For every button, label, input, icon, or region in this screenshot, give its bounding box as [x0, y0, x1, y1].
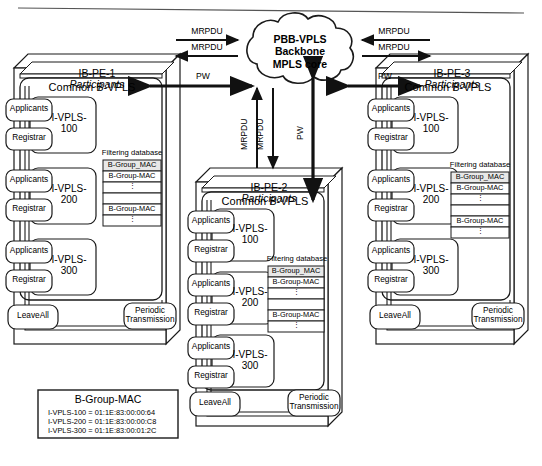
ib-pe-2-filtering-database[interactable]	[268, 266, 324, 332]
ib-pe-2-registrar-300[interactable]	[188, 366, 234, 388]
ib-pe-3-registrar-100[interactable]	[368, 128, 414, 150]
pbb-vpls-cloud-shape[interactable]	[247, 13, 353, 83]
ib-pe-2-applicants-200[interactable]	[188, 274, 234, 296]
ib-pe-1-registrar-300[interactable]	[6, 270, 52, 292]
ib-pe-1-registrar-200[interactable]	[6, 199, 52, 221]
ib-pe-1-periodic-transmission[interactable]	[124, 303, 176, 329]
ib-pe-2-registrar-100[interactable]	[188, 240, 234, 262]
diagram-vector-layer	[0, 0, 542, 466]
ib-pe-3-registrar-200[interactable]	[368, 199, 414, 221]
ib-pe-1-applicants-200[interactable]	[6, 170, 52, 192]
page-rule	[18, 8, 524, 13]
ib-pe-1-filtering-database[interactable]	[103, 160, 161, 226]
ib-pe-2-applicants-300[interactable]	[188, 337, 234, 359]
ib-pe-3-applicants-100[interactable]	[368, 99, 414, 121]
diagram-canvas: PBB-VPLS Backbone MPLS core MRPDU MRPDU …	[0, 0, 542, 466]
ib-pe-3-registrar-300[interactable]	[368, 270, 414, 292]
ib-pe-2-applicants-100[interactable]	[188, 211, 234, 233]
ib-pe-1-leaveall[interactable]	[8, 305, 58, 329]
ib-pe-3-applicants-300[interactable]	[368, 241, 414, 263]
ib-pe-2-registrar-200[interactable]	[188, 303, 234, 325]
ib-pe-3-periodic-transmission[interactable]	[472, 303, 524, 329]
ib-pe-2-periodic-transmission[interactable]	[288, 390, 340, 416]
legend-box	[38, 390, 178, 438]
ib-pe-3-filtering-database[interactable]	[451, 172, 509, 238]
ib-pe-3-applicants-200[interactable]	[368, 170, 414, 192]
ib-pe-3-leaveall[interactable]	[370, 305, 420, 329]
ib-pe-1-registrar-100[interactable]	[6, 128, 52, 150]
ib-pe-1-applicants-100[interactable]	[6, 99, 52, 121]
ib-pe-1-applicants-300[interactable]	[6, 241, 52, 263]
ib-pe-2-leaveall[interactable]	[190, 392, 240, 416]
